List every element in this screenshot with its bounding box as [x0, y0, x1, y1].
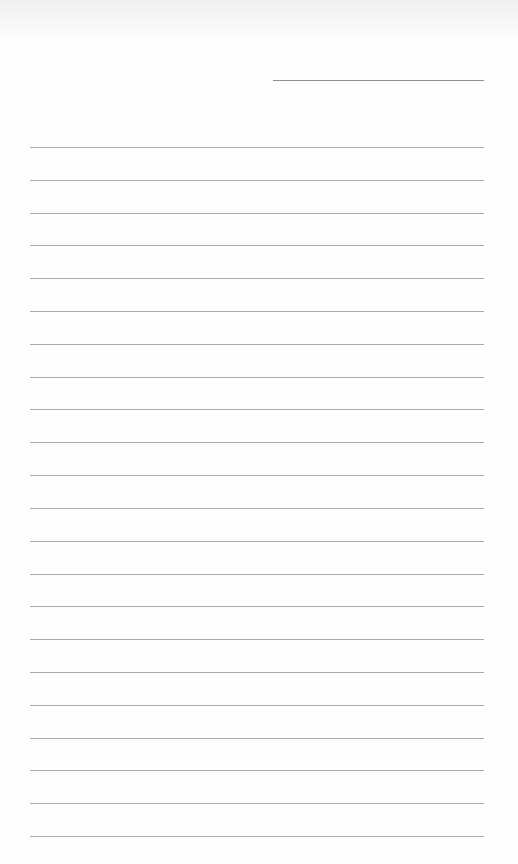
- ruled-line: [30, 541, 484, 542]
- ruled-line: [30, 803, 484, 804]
- ruled-line: [30, 639, 484, 640]
- ruled-line: [30, 278, 484, 279]
- ruled-line: [30, 377, 484, 378]
- header-line: [273, 80, 484, 81]
- ruled-line: [30, 705, 484, 706]
- ruled-line: [30, 409, 484, 410]
- ruled-line: [30, 606, 484, 607]
- ruled-line: [30, 508, 484, 509]
- lined-paper: [0, 0, 518, 864]
- ruled-line: [30, 180, 484, 181]
- ruled-line: [30, 442, 484, 443]
- ruled-line: [30, 147, 484, 148]
- ruled-line: [30, 475, 484, 476]
- ruled-line: [30, 770, 484, 771]
- ruled-line: [30, 344, 484, 345]
- ruled-line: [30, 836, 484, 837]
- ruled-line: [30, 738, 484, 739]
- ruled-line: [30, 574, 484, 575]
- ruled-line: [30, 672, 484, 673]
- ruled-line: [30, 311, 484, 312]
- ruled-line: [30, 245, 484, 246]
- ruled-line: [30, 213, 484, 214]
